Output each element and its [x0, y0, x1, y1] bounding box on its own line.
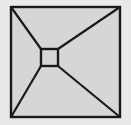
inner-square	[41, 49, 58, 66]
outer-square	[11, 7, 120, 117]
perspective-square-diagram: Square with inscribed offset square and …	[0, 0, 131, 125]
diagram-canvas: Square with inscribed offset square and …	[0, 0, 131, 125]
